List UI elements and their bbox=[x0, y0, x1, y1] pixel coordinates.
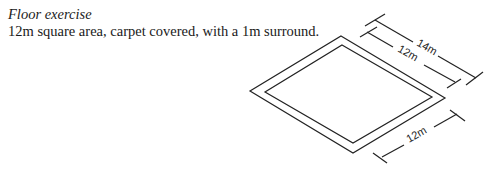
inner-square bbox=[265, 45, 432, 143]
floor-area-diagram: 14m 12m 12m bbox=[0, 0, 493, 173]
dimension-label-12m-bottom: 12m bbox=[404, 124, 429, 145]
